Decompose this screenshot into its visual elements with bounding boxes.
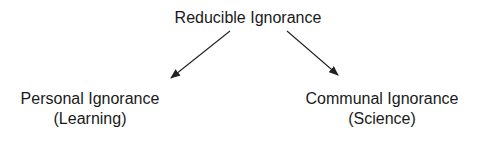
personal-ignorance-label: Personal Ignorance	[0, 89, 180, 109]
arrow-to-communal	[287, 31, 338, 75]
communal-ignorance-sublabel: (Science)	[292, 109, 472, 129]
root-label: Reducible Ignorance	[175, 9, 322, 26]
root-node: Reducible Ignorance	[148, 8, 348, 28]
personal-ignorance-node: Personal Ignorance (Learning)	[0, 89, 180, 129]
communal-ignorance-node: Communal Ignorance (Science)	[292, 89, 472, 129]
arrow-to-personal	[171, 31, 230, 78]
personal-ignorance-sublabel: (Learning)	[0, 109, 180, 129]
communal-ignorance-label: Communal Ignorance	[292, 89, 472, 109]
